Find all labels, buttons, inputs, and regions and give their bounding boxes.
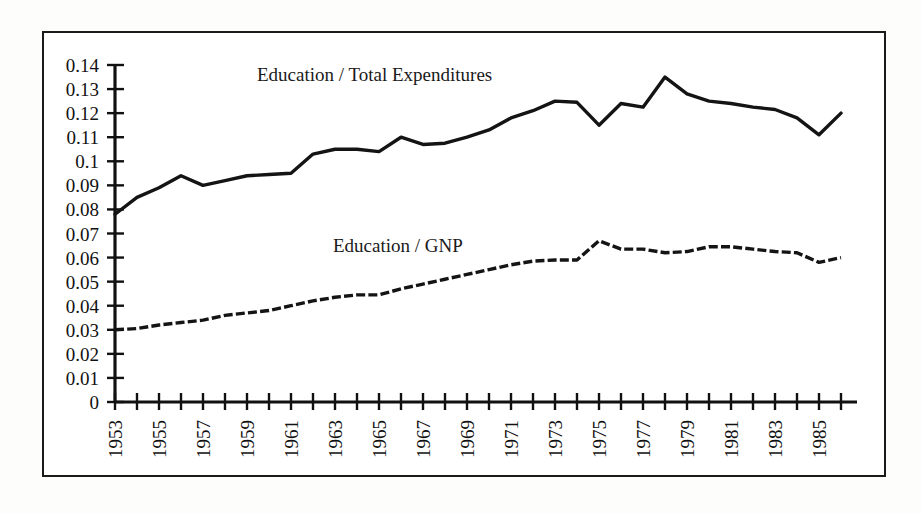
- chart-frame: 0.140.130.120.110.10.090.080.070.060.050…: [42, 31, 886, 477]
- y-tick-label: 0.07: [66, 224, 99, 245]
- y-tick-label: 0.08: [66, 199, 99, 220]
- y-tick-label: 0.13: [66, 79, 99, 100]
- y-tick-label: 0.09: [66, 175, 99, 196]
- line-chart: 0.140.130.120.110.10.090.080.070.060.050…: [44, 33, 884, 475]
- y-tick-label: 0.02: [66, 344, 99, 365]
- x-tick-label: 1985: [809, 420, 830, 458]
- x-tick-label: 1955: [149, 420, 170, 458]
- y-tick-label: 0.01: [66, 368, 99, 389]
- y-tick-label: 0.05: [66, 272, 99, 293]
- series-annotation-education-total-expenditures: Education / Total Expenditures: [257, 64, 492, 85]
- x-tick-label: 1959: [237, 420, 258, 458]
- x-tick-label: 1961: [281, 420, 302, 458]
- y-tick-label: 0.03: [66, 320, 99, 341]
- x-tick-label: 1975: [589, 420, 610, 458]
- x-tick-label: 1969: [457, 420, 478, 458]
- x-tick-label: 1957: [193, 420, 214, 458]
- y-tick-label: 0: [90, 392, 100, 413]
- y-tick-label: 0.11: [66, 127, 99, 148]
- series-line-education-total-expenditures: [115, 77, 841, 214]
- series-line-education-gnp: [115, 241, 841, 330]
- x-tick-label: 1971: [501, 420, 522, 458]
- x-tick-label: 1967: [413, 420, 434, 458]
- x-tick-label: 1953: [105, 420, 126, 458]
- x-tick-label: 1977: [633, 420, 654, 458]
- x-tick-label: 1983: [765, 420, 786, 458]
- x-tick-label: 1979: [677, 420, 698, 458]
- y-axis-tick-labels: 0.140.130.120.110.10.090.080.070.060.050…: [66, 55, 100, 413]
- figure-page: 0.140.130.120.110.10.090.080.070.060.050…: [0, 0, 921, 514]
- y-tick-label: 0.06: [66, 248, 99, 269]
- x-tick-label: 1965: [369, 420, 390, 458]
- x-tick-label: 1963: [325, 420, 346, 458]
- y-tick-label: 0.12: [66, 103, 99, 124]
- x-tick-label: 1981: [721, 420, 742, 458]
- y-tick-label: 0.04: [66, 296, 100, 317]
- y-tick-label: 0.1: [75, 151, 99, 172]
- x-axis-tick-labels: 1953195519571959196119631965196719691971…: [105, 420, 830, 458]
- y-tick-label: 0.14: [66, 55, 100, 76]
- series-annotation-education-gnp: Education / GNP: [333, 235, 463, 256]
- x-tick-label: 1973: [545, 420, 566, 458]
